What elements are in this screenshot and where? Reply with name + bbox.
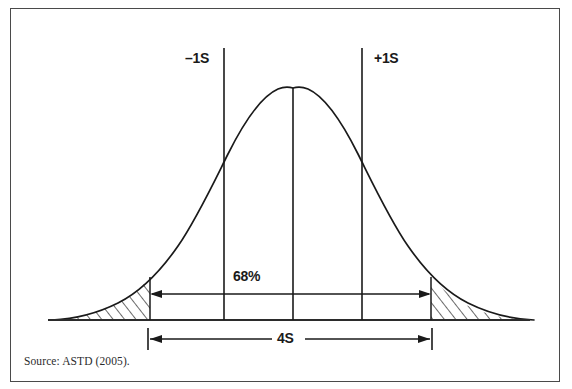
plus-one-sigma-label: +1S: [374, 50, 398, 66]
sixty-eight-percent-label: 68%: [233, 268, 260, 284]
left-tail-hatched-region: [48, 260, 156, 322]
source-note: Source: ASTD (2005).: [24, 355, 130, 367]
minus-one-sigma-label: –1S: [185, 50, 209, 66]
four-s-label: 4S: [277, 330, 294, 346]
right-tail-hatched-region: [425, 260, 537, 322]
figure-root: –1S +1S 68% 4S Source: ASTD (2005).: [0, 0, 572, 389]
sixty-eight-percent-arrow: [150, 290, 431, 298]
